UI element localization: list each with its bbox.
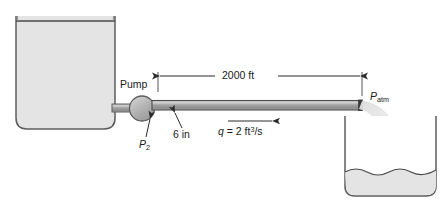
diameter-leader bbox=[175, 113, 182, 128]
receiving-tank bbox=[345, 116, 436, 196]
pipe-diameter-label: 6 in bbox=[173, 129, 190, 140]
pump-label: Pump bbox=[120, 79, 147, 90]
pump-pipeline-diagram: Pump 2000 ft 6 in q = 2 ft3/s P2 Patm bbox=[0, 0, 445, 201]
flow-rate-label: q = 2 ft3/s bbox=[218, 126, 263, 137]
supply-tank bbox=[16, 16, 115, 129]
outlet-pressure-symbol: P bbox=[139, 138, 146, 150]
atmospheric-pressure-label: Patm bbox=[370, 91, 389, 103]
length-dimension bbox=[158, 72, 362, 96]
flow-rate-value: = 2 ft bbox=[227, 125, 251, 137]
pump-symbol bbox=[130, 96, 155, 121]
pipe-length-label: 2000 ft bbox=[219, 70, 257, 81]
atmospheric-pressure-subscript: atm bbox=[377, 95, 389, 104]
discharge-pipe bbox=[152, 100, 363, 111]
outlet-pressure-leader bbox=[146, 119, 150, 137]
flow-rate-symbol: q bbox=[218, 125, 224, 137]
outlet-pressure-label: P2 bbox=[139, 139, 150, 151]
outlet-pressure-subscript: 2 bbox=[146, 143, 150, 152]
atmospheric-pressure-symbol: P bbox=[370, 90, 377, 102]
flow-rate-unit: /s bbox=[254, 125, 262, 137]
